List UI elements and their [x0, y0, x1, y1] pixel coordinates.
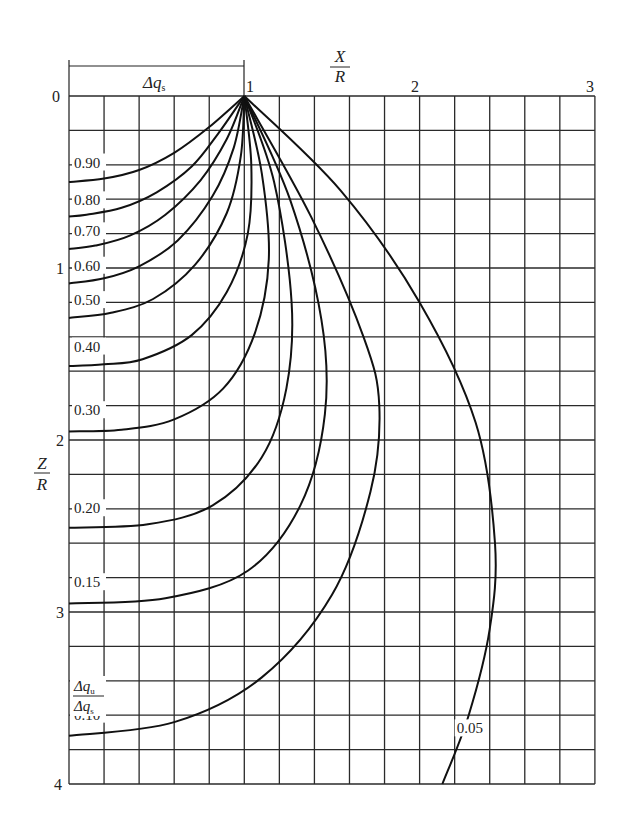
- stress-contour-chart: 0.900.800.700.600.500.400.300.200.150.10…: [0, 0, 621, 813]
- z-tick-3: 3: [56, 604, 64, 621]
- curve-family-label: Δqu Δqs: [70, 676, 106, 716]
- contour-label: 0.80: [74, 192, 100, 208]
- svg-text:R: R: [334, 67, 346, 86]
- contour-label: 0.50: [74, 292, 100, 308]
- contour-labels: 0.900.800.700.600.500.400.300.200.150.10…: [72, 154, 489, 737]
- contour-label: 0.40: [74, 339, 100, 355]
- contour-label: 0.70: [74, 223, 100, 239]
- contour-label: 0.15: [74, 574, 100, 590]
- z-tick-2: 2: [56, 432, 64, 449]
- svg-text:X: X: [334, 47, 346, 66]
- contour-curve-0-10: [69, 96, 380, 736]
- svg-text:Z: Z: [37, 454, 47, 473]
- contour-label: 0.60: [74, 258, 100, 274]
- contour-label: 0.20: [74, 500, 100, 516]
- z-axis-label: Z R: [34, 454, 50, 494]
- x-tick-1: 1: [246, 78, 254, 95]
- svg-text:R: R: [36, 475, 48, 494]
- x-tick-3: 3: [586, 78, 594, 95]
- load-width-bracket: Δqs: [69, 60, 244, 96]
- grid: [69, 96, 595, 784]
- contour-label: 0.90: [74, 155, 100, 171]
- delta-qs-label: Δqs: [142, 73, 165, 93]
- x-axis-label: X R: [330, 47, 350, 86]
- contour-label: 0.30: [74, 402, 100, 418]
- z-tick-0: 0: [52, 88, 60, 105]
- z-tick-1: 1: [56, 260, 64, 277]
- x-tick-2: 2: [411, 78, 419, 95]
- z-tick-4: 4: [54, 776, 62, 793]
- contour-label: 0.05: [457, 720, 483, 736]
- contour-curve-0-60: [69, 96, 244, 284]
